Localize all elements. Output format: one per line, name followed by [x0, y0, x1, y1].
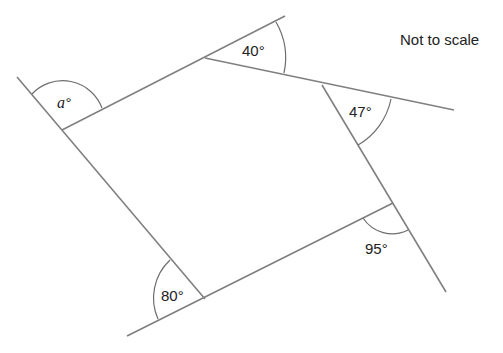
top-line [62, 16, 285, 130]
right-line [322, 85, 446, 292]
left-line [17, 77, 205, 299]
angle-arc-95 [363, 218, 408, 234]
geometry-diagram: a° 40° 47° 95° 80° [0, 0, 503, 353]
upper-slanted-line [205, 58, 454, 110]
bottom-line [127, 203, 393, 336]
angle-label-40: 40° [242, 42, 265, 59]
angle-label-a: a° [57, 94, 71, 111]
angle-arc-40 [276, 22, 286, 73]
angle-label-80: 80° [161, 287, 184, 304]
angle-label-95: 95° [365, 240, 388, 257]
angle-label-47: 47° [349, 103, 372, 120]
not-to-scale-note: Not to scale [400, 31, 479, 48]
